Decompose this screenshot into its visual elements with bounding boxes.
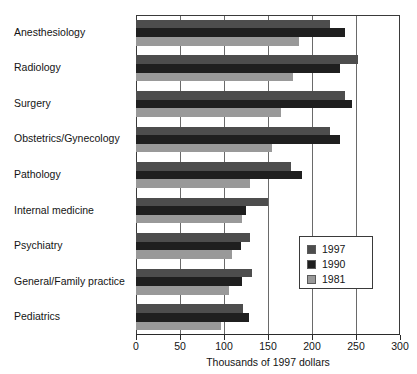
category-label-6: Psychiatry bbox=[14, 240, 122, 251]
bar-chart: AnesthesiologyRadiologySurgeryObstetrics… bbox=[0, 0, 417, 374]
bar bbox=[136, 313, 249, 322]
legend-item-1990: 1990 bbox=[307, 257, 372, 272]
bar bbox=[136, 277, 242, 286]
bar bbox=[136, 73, 293, 82]
category-label-0: Anesthesiology bbox=[14, 27, 122, 38]
bar bbox=[136, 144, 272, 153]
x-tick-label: 150 bbox=[259, 341, 277, 352]
bar bbox=[136, 322, 221, 331]
x-axis-title: Thousands of 1997 dollars bbox=[136, 357, 400, 368]
category-label-5: Internal medicine bbox=[14, 205, 122, 216]
x-tick-label: 300 bbox=[391, 341, 409, 352]
legend-swatch-icon bbox=[307, 260, 316, 269]
bar bbox=[136, 233, 250, 242]
x-tick-label: 100 bbox=[215, 341, 233, 352]
legend-item-1981: 1981 bbox=[307, 272, 372, 287]
bar bbox=[136, 37, 299, 46]
bar bbox=[136, 215, 242, 224]
bar bbox=[136, 135, 340, 144]
bar bbox=[136, 100, 352, 109]
x-tick-label: 250 bbox=[347, 341, 365, 352]
bar bbox=[136, 171, 302, 180]
bar bbox=[136, 269, 252, 278]
chart-legend: 199719901981 bbox=[299, 236, 373, 289]
bar bbox=[136, 250, 232, 259]
bar bbox=[136, 206, 246, 215]
bar bbox=[136, 179, 250, 188]
bar bbox=[136, 91, 345, 100]
legend-swatch-icon bbox=[307, 275, 316, 284]
bar bbox=[136, 242, 241, 251]
category-label-4: Pathology bbox=[14, 169, 122, 180]
category-label-7: General/Family practice bbox=[14, 276, 122, 287]
x-tick-label: 200 bbox=[303, 341, 321, 352]
bar bbox=[136, 198, 268, 207]
category-label-2: Surgery bbox=[14, 98, 122, 109]
legend-label: 1997 bbox=[322, 244, 345, 255]
legend-label: 1990 bbox=[322, 259, 345, 270]
category-axis: AnesthesiologyRadiologySurgeryObstetrics… bbox=[0, 15, 130, 335]
x-tick-label: 0 bbox=[133, 341, 139, 352]
bar bbox=[136, 162, 291, 171]
bar bbox=[136, 304, 243, 313]
category-label-3: Obstetrics/Gynecology bbox=[14, 133, 122, 144]
x-tick-label: 50 bbox=[174, 341, 186, 352]
legend-swatch-icon bbox=[307, 245, 316, 254]
bar bbox=[136, 55, 358, 64]
bar bbox=[136, 108, 281, 117]
bar bbox=[136, 286, 229, 295]
bar bbox=[136, 127, 330, 136]
legend-item-1997: 1997 bbox=[307, 242, 372, 257]
bar bbox=[136, 20, 330, 29]
bar bbox=[136, 64, 340, 73]
bar bbox=[136, 28, 345, 37]
legend-label: 1981 bbox=[322, 274, 345, 285]
category-label-1: Radiology bbox=[14, 62, 122, 73]
category-label-8: Pediatrics bbox=[14, 311, 122, 322]
